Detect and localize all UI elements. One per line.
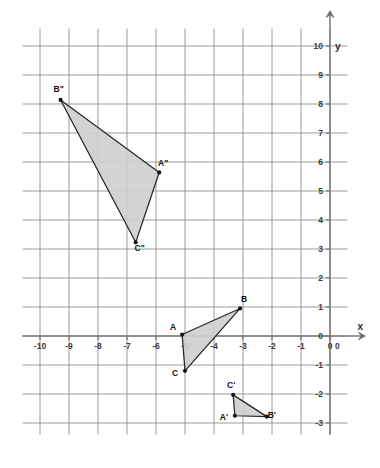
vertex-point [180,332,184,336]
x-tick-label: -7 [123,341,131,351]
coordinate-plane-figure: -10-9-8-7-6-5-4-3-2-10-3-2-1012345678910… [0,0,380,468]
vertex-point [58,98,62,102]
vertex-label: A [170,322,176,332]
origin-label: 0 [335,341,340,351]
triangle-A-double-prime-B-double-prime-C-double-prime [61,100,160,242]
vertex-label: B' [268,410,276,420]
y-tick-label: 7 [318,128,323,138]
y-tick-label: -1 [315,360,323,370]
vertex-label: A" [158,158,168,168]
y-tick-label: 9 [318,70,323,80]
y-tick-label: 0 [318,331,323,341]
x-axis-label: x [357,321,363,332]
triangles [61,100,267,417]
y-tick-label: 5 [318,186,323,196]
vertex-point [157,170,161,174]
vertex-point [238,306,242,310]
x-tick-label: -3 [239,341,247,351]
x-tick-label: -6 [152,341,160,351]
triangle-A-prime-B-prime-C-prime [233,395,267,417]
y-tick-label: -2 [315,389,323,399]
vertex-point [231,393,235,397]
vertex-label: B" [54,84,64,94]
y-tick-label: 6 [318,157,323,167]
axis-names: xy0 [335,41,363,351]
x-tick-label: -8 [94,341,102,351]
y-tick-label: 8 [318,99,323,109]
x-tick-label: -10 [34,341,47,351]
x-tick-label: -9 [65,341,73,351]
grid-lines [23,29,348,435]
vertex-point [233,414,237,418]
y-tick-label: 10 [314,41,324,51]
vertex-label: B [241,294,247,304]
y-tick-label: 3 [318,244,323,254]
vertex-label: A' [220,412,228,422]
axes [23,11,366,435]
y-tick-label: 1 [318,302,323,312]
triangle-ABC [182,308,240,370]
y-tick-label: 4 [318,215,323,225]
x-tick-label: -4 [210,341,218,351]
vertex-label: C" [135,243,145,253]
y-axis-label: y [335,41,341,52]
vertex-label: C [172,368,178,378]
vertex-label: C' [227,380,235,390]
x-tick-label: 0 [328,341,333,351]
x-tick-label: -2 [268,341,276,351]
x-tick-label: -1 [297,341,305,351]
y-tick-label: 2 [318,273,323,283]
vertex-point [183,369,187,373]
coordinate-plane-svg: -10-9-8-7-6-5-4-3-2-10-3-2-1012345678910… [0,0,380,468]
y-tick-label: -3 [315,418,323,428]
